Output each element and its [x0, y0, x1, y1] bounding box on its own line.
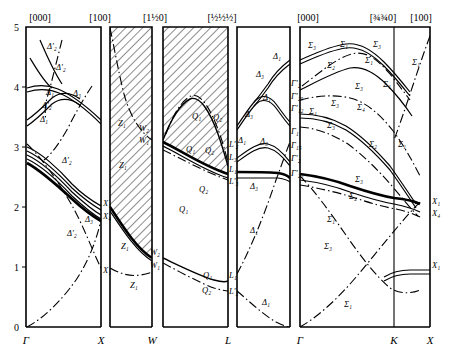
band-label: Σ₃ — [326, 120, 335, 130]
direction-header: [100] — [410, 12, 432, 23]
band-curve-dashdot — [237, 142, 290, 274]
bands-panel-gamma-x — [27, 40, 101, 327]
band-label: Γ₁₅ — [290, 140, 302, 150]
band-curve — [27, 159, 101, 219]
band-label: Γ₁ — [290, 126, 299, 136]
band-label: Σ₁ — [343, 299, 352, 309]
band-label: X₄ — [102, 211, 111, 221]
band-label: Δ'₂ — [61, 155, 72, 165]
band-label: Δ'₂ — [41, 100, 52, 110]
band-label: Σ₃ — [323, 241, 332, 251]
band-curve — [237, 144, 290, 162]
band-label: Δ₃ — [249, 181, 258, 191]
band-label: X₁ — [431, 196, 440, 206]
bands-panel-gamma-k-x — [300, 36, 430, 327]
y-tick-label: 0 — [14, 322, 19, 333]
panel-frame-gamma-x — [26, 27, 101, 327]
band-label: Z₁ — [121, 241, 129, 251]
band-label: L'₃ — [228, 176, 239, 186]
hatched-gap-regions — [110, 27, 228, 258]
band-label: W₁ — [139, 135, 149, 145]
y-tick-label: 2 — [14, 202, 19, 213]
band-label: Σ₃ — [354, 174, 363, 184]
band-curve — [163, 258, 228, 282]
band-label: Γ'₂ — [290, 153, 301, 163]
axis-point-labels: Γ X W L Γ K X — [22, 334, 435, 346]
direction-header: [100] — [89, 12, 111, 23]
band-label: Q₂ — [202, 285, 211, 295]
band-label: Σ₁ — [397, 139, 406, 149]
axis-point-label: W — [147, 334, 157, 346]
band-label: X₁ — [431, 260, 440, 270]
band-label: Σ₁ — [411, 57, 420, 67]
band-label: Δ'₂ — [46, 41, 57, 51]
band-label: Σ₁ — [308, 106, 317, 116]
band-label: Δ₁ — [39, 114, 48, 124]
band-label: Γ'₂₅ — [290, 91, 304, 101]
band-label: W₂ — [139, 123, 149, 133]
band-label: Q₁ — [203, 270, 212, 280]
direction-header: [½½½] — [207, 12, 236, 23]
band-curve-dashdot — [110, 268, 152, 275]
band-label: Σ₁ — [364, 55, 373, 65]
band-diagram-svg: [000] [100] [1½0] [½½½] [000] [¾¾0] [100… — [0, 0, 450, 359]
band-curve — [237, 172, 290, 178]
band-label: Δ₁ — [249, 225, 258, 235]
band-curve — [237, 178, 290, 182]
band-label: X₁ — [102, 265, 111, 275]
band-curve — [27, 100, 80, 126]
band-label: Γ'₁₂ — [290, 103, 304, 113]
band-label: Δ₁ — [261, 297, 270, 307]
y-tick-label: 1 — [14, 262, 19, 273]
band-curve — [300, 180, 420, 212]
band-label: Δ₁ — [45, 87, 54, 97]
direction-header: [¾¾0] — [370, 12, 397, 23]
y-tick-label: 3 — [14, 142, 19, 153]
band-label: Σ₁ — [326, 214, 335, 224]
band-label: Σ₂ — [326, 60, 335, 70]
band-curve — [27, 86, 101, 121]
band-label: Γ'₂₅ — [290, 168, 304, 178]
direction-headers: [000] [100] [1½0] [½½½] [000] [¾¾0] [100… — [29, 12, 432, 23]
band-label: Δ'₂ — [55, 62, 66, 72]
band-label: Δ₃ — [244, 109, 253, 119]
band-label: Δ₃ — [259, 136, 268, 146]
band-label: Σ₃ — [330, 98, 339, 108]
band-curve-dashdot — [163, 263, 228, 291]
band-label: Z₁ — [118, 118, 126, 128]
band-label: Σ₂ — [348, 191, 357, 201]
band-label: Δ'₂ — [66, 228, 77, 238]
axis-point-label: L — [224, 334, 231, 346]
band-label: Q₁ — [192, 111, 201, 121]
band-curve — [30, 58, 52, 88]
y-tick-label: 4 — [14, 82, 19, 93]
band-label: Δ₁ — [272, 51, 281, 61]
band-curve-dashdot — [300, 176, 420, 293]
y-tick-label: 5 — [14, 22, 19, 33]
band-label: L₁ — [228, 164, 237, 174]
band-curve — [27, 90, 101, 125]
band-label: Σ₄ — [356, 102, 365, 112]
band-label: Q₂ — [213, 112, 222, 122]
band-label: W₂ — [150, 247, 160, 257]
band-label: Z₁ — [119, 160, 127, 170]
band-label: Δ₃ — [72, 88, 81, 98]
band-curve-dashdot — [300, 202, 420, 327]
band-label: L₁ — [228, 270, 237, 280]
band-label: Σ₁ — [382, 79, 391, 89]
band-label: L₃ — [228, 152, 237, 162]
band-label: Q₁ — [179, 204, 188, 214]
band-curve — [27, 163, 101, 221]
direction-header: [000] — [297, 12, 319, 23]
band-curve — [384, 274, 430, 281]
axis-point-label: Γ — [22, 334, 30, 346]
band-curve-dashdot — [394, 36, 430, 140]
band-label: Q₂ — [199, 184, 208, 194]
direction-header: [000] — [29, 12, 51, 23]
axis-point-label: Γ — [296, 334, 304, 346]
band-label: Σ₃ — [372, 39, 381, 49]
band-label: Δ₁ — [237, 135, 246, 145]
band-label: Δ₁ — [262, 92, 271, 102]
band-label: X₁ — [102, 198, 111, 208]
band-label: Δ₃ — [255, 69, 264, 79]
